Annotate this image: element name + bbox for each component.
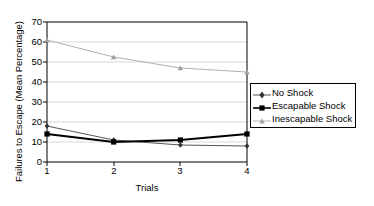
chart-legend: No Shock Escapable Shock Inescapable Sho… bbox=[250, 83, 356, 128]
series-inescapable-shock bbox=[44, 37, 250, 74]
data-point-marker bbox=[178, 142, 183, 148]
x-axis-ticks bbox=[47, 162, 247, 166]
data-point-marker bbox=[245, 143, 250, 149]
data-point-marker bbox=[244, 131, 249, 136]
data-point-marker bbox=[111, 139, 116, 144]
series-line bbox=[47, 40, 247, 72]
gridlines bbox=[47, 42, 247, 142]
legend-label: Escapable Shock bbox=[271, 100, 345, 112]
legend-label: Inescapable Shock bbox=[271, 113, 352, 125]
y-axis-ticks bbox=[43, 22, 47, 162]
legend-marker-square-icon bbox=[253, 100, 271, 112]
data-point-marker bbox=[44, 131, 49, 136]
chart-figure: Failures to Escape (Mean Percentage) 70 … bbox=[0, 0, 374, 206]
legend-marker-diamond-icon bbox=[253, 87, 271, 99]
legend-marker-triangle-icon bbox=[253, 113, 271, 125]
series-line bbox=[47, 134, 247, 142]
data-point-marker bbox=[44, 37, 50, 42]
data-point-marker bbox=[178, 137, 183, 142]
legend-item-no-shock: No Shock bbox=[253, 86, 352, 99]
legend-item-inescapable-shock: Inescapable Shock bbox=[253, 112, 352, 125]
data-point-marker bbox=[45, 123, 50, 129]
legend-item-escapable-shock: Escapable Shock bbox=[253, 99, 352, 112]
legend-label: No Shock bbox=[271, 87, 313, 99]
